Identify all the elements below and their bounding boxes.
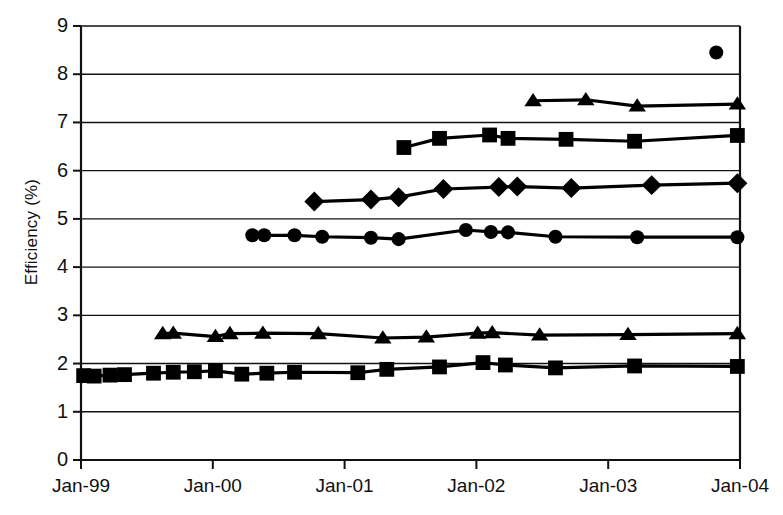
series-5	[154, 325, 746, 344]
data-point-diamond	[489, 177, 509, 197]
data-point-square	[187, 364, 202, 379]
data-point-square	[498, 358, 513, 373]
x-tick-label: Jan-03	[579, 476, 637, 496]
data-point-circle	[257, 228, 271, 242]
series-2	[397, 128, 745, 155]
data-point-square	[379, 362, 394, 377]
data-point-circle	[730, 230, 744, 244]
data-point-circle	[392, 232, 406, 246]
data-point-circle	[287, 228, 301, 242]
data-point-diamond	[389, 187, 409, 207]
data-point-square	[117, 367, 132, 382]
x-tick-label: Jan-00	[184, 476, 242, 496]
data-point-diamond	[727, 173, 747, 193]
data-point-circle	[630, 230, 644, 244]
data-point-circle	[364, 231, 378, 245]
data-point-diamond	[361, 190, 381, 210]
data-point-circle	[315, 230, 329, 244]
data-point-square	[482, 128, 497, 143]
series-7	[709, 45, 723, 59]
data-point-square	[730, 359, 745, 374]
data-point-square	[432, 131, 447, 146]
data-point-square	[397, 140, 412, 155]
data-point-diamond	[561, 178, 581, 198]
x-tick-label: Jan-99	[52, 476, 110, 496]
data-point-square	[350, 365, 365, 380]
data-point-square	[548, 360, 563, 375]
plot-area	[0, 0, 783, 515]
series-1	[524, 92, 746, 112]
data-point-square	[234, 367, 249, 382]
data-point-circle	[501, 225, 515, 239]
x-tick-label: Jan-02	[447, 476, 505, 496]
data-point-square	[559, 132, 574, 147]
data-point-square	[146, 366, 161, 381]
data-point-diamond	[642, 175, 662, 195]
data-point-diamond	[304, 192, 324, 212]
data-point-square	[87, 369, 102, 384]
series-6	[76, 355, 745, 383]
data-point-diamond	[507, 177, 527, 197]
data-point-square	[287, 365, 302, 380]
data-point-square	[501, 131, 516, 146]
data-point-diamond	[433, 179, 453, 199]
chart-container: Efficiency (%) 9876543210 Jan-99Jan-00Ja…	[0, 0, 783, 515]
series-4	[245, 223, 744, 246]
data-point-square	[627, 134, 642, 149]
data-point-square	[208, 363, 223, 378]
data-point-square	[730, 128, 745, 143]
data-point-square	[103, 368, 118, 383]
data-point-circle	[459, 223, 473, 237]
data-point-circle	[548, 230, 562, 244]
data-point-square	[432, 360, 447, 375]
x-tick-label: Jan-01	[316, 476, 374, 496]
data-point-square	[166, 365, 181, 380]
data-point-square	[476, 355, 491, 370]
data-point-square	[627, 359, 642, 374]
data-point-circle	[709, 45, 723, 59]
data-point-circle	[484, 225, 498, 239]
x-tick-label: Jan-04	[711, 476, 769, 496]
data-point-square	[259, 366, 274, 381]
series-3	[304, 173, 747, 211]
series-line	[163, 333, 738, 338]
